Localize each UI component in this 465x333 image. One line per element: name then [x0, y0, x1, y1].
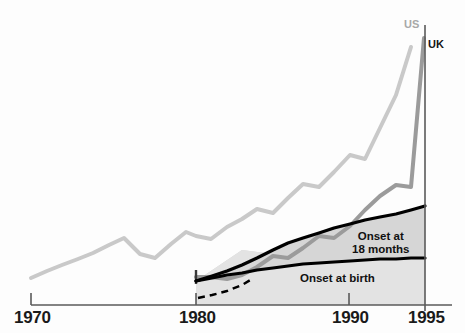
band-label-onset-18-months-line1: Onset at [358, 230, 404, 242]
x-tick-label-1970: 1970 [14, 308, 51, 328]
band-label-onset-18-months-line2: 18 months [352, 243, 410, 255]
series-label-us: US [404, 18, 419, 30]
band-label-onset-at-birth: Onset at birth [300, 272, 375, 285]
series-label-uk: UK [428, 38, 444, 50]
chart-container: 1970 1980 1990 1995 US UK Onset at 18 mo… [0, 0, 465, 333]
x-tick-label-1995: 1995 [408, 308, 445, 328]
x-tick-label-1980: 1980 [179, 308, 216, 328]
chart-plot-area [0, 0, 465, 333]
x-tick-label-1990: 1990 [332, 308, 369, 328]
band-label-onset-18-months: Onset at 18 months [352, 230, 410, 256]
